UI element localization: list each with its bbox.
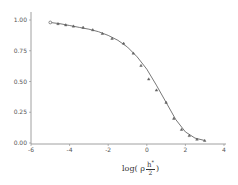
data-point-marker [140,64,143,66]
x-tick-label: 2 [183,146,187,153]
x-axis-label-suffix: ) [156,164,159,173]
x-tick-label: -4 [67,146,73,153]
x-tick-label: 0 [145,146,149,153]
curve-path [50,23,204,141]
data-point-marker [155,89,158,91]
data-point-marker [49,21,52,24]
x-tick-label: -2 [105,146,111,153]
y-tick-label: 1.00 [14,16,28,23]
fraction-denominator: 2 [148,170,152,176]
fitted-curve [50,23,204,141]
y-tick-label: 0.75 [14,47,28,54]
data-point-marker [147,78,150,80]
x-tick-label: 4 [222,146,226,153]
y-tick-label: 0.25 [14,108,28,115]
x-axis-label-fraction: h* 2 [146,160,155,176]
data-points [49,21,206,141]
y-tick-label: 0.00 [14,139,28,146]
data-point-marker [82,26,85,28]
axes: 0.000.250.500.751.00-6-4-2024 [14,12,226,153]
y-tick-label: 0.50 [14,78,28,85]
x-axis-label-prefix: log( ρ [122,164,145,173]
data-point-marker [122,42,125,44]
x-tick-label: -6 [28,146,34,153]
line-chart: 0.000.250.500.751.00-6-4-2024 [0,0,238,160]
